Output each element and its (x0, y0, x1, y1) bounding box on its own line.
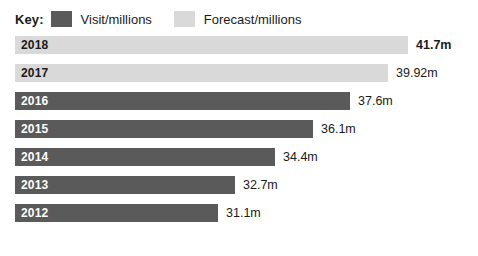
forecast-swatch-icon (174, 11, 195, 27)
bar-value-label: 37.6m (358, 92, 393, 110)
legend-title: Key: (15, 12, 44, 27)
bar-value-label: 31.1m (226, 204, 261, 222)
plot-area: 201841.7m201739.92m201637.6m201536.1m201… (0, 32, 478, 232)
bar-category-label: 2015 (21, 122, 49, 136)
bar-2012[interactable]: 2012 (15, 204, 218, 222)
bar-2018[interactable]: 2018 (15, 36, 408, 54)
visit-swatch-icon (51, 11, 72, 27)
chart-legend: Key: Visit/millions Forecast/millions (15, 9, 301, 29)
bar-category-label: 2018 (21, 38, 49, 52)
bar-2013[interactable]: 2013 (15, 176, 235, 194)
legend-label-visit: Visit/millions (81, 12, 152, 27)
bar-2016[interactable]: 2016 (15, 92, 350, 110)
bar-chart: Key: Visit/millions Forecast/millions 20… (0, 0, 478, 256)
bar-value-label: 32.7m (243, 176, 278, 194)
bar-value-label: 36.1m (321, 120, 356, 138)
bar-category-label: 2012 (21, 206, 49, 220)
bar-value-label: 34.4m (283, 148, 318, 166)
bar-category-label: 2014 (21, 150, 49, 164)
bar-2014[interactable]: 2014 (15, 148, 275, 166)
bar-2017[interactable]: 2017 (15, 64, 388, 82)
legend-entry-forecast: Forecast/millions (174, 11, 302, 27)
legend-entry-visit: Visit/millions (51, 11, 152, 27)
bar-category-label: 2017 (21, 66, 49, 80)
bar-value-label: 39.92m (396, 64, 438, 82)
legend-label-forecast: Forecast/millions (204, 12, 302, 27)
bar-category-label: 2016 (21, 94, 49, 108)
bar-value-label: 41.7m (416, 36, 451, 54)
bar-category-label: 2013 (21, 178, 49, 192)
bar-2015[interactable]: 2015 (15, 120, 313, 138)
